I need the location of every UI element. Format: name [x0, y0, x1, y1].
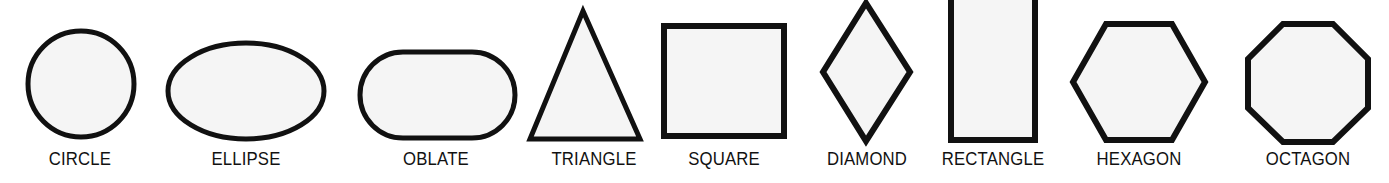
shape-item-triangle: TRIANGLE: [524, 0, 664, 183]
shape-item-square: SQUARE: [655, 0, 793, 183]
ellipse-icon: [168, 43, 324, 139]
shape-item-ellipse: ELLIPSE: [160, 0, 332, 183]
shape-item-diamond: DIAMOND: [800, 0, 934, 183]
shape-label-triangle: TRIANGLE: [532, 148, 655, 170]
oblate-icon: [360, 52, 515, 138]
shape-item-circle: CIRCLE: [0, 0, 160, 183]
rectangle-shape-art: [933, 0, 1053, 150]
triangle-shape-art: [524, 0, 664, 150]
shape-label-circle: CIRCLE: [10, 148, 151, 170]
shape-item-rectangle: RECTANGLE: [933, 0, 1053, 183]
octagon-shape-art: [1232, 0, 1384, 150]
square-shape-art: [655, 0, 793, 150]
shape-label-rectangle: RECTANGLE: [940, 148, 1046, 170]
rectangle-icon: [951, 0, 1035, 140]
shape-label-diamond: DIAMOND: [808, 148, 926, 170]
shape-label-ellipse: ELLIPSE: [170, 148, 321, 170]
ellipse-shape-art: [160, 0, 332, 150]
triangle-icon: [530, 11, 640, 139]
hexagon-icon: [1073, 24, 1205, 140]
diamond-icon: [823, 3, 910, 141]
shape-label-octagon: OCTAGON: [1241, 148, 1375, 170]
oblate-shape-art: [344, 0, 528, 150]
shape-label-oblate: OBLATE: [355, 148, 517, 170]
circle-shape-art: [0, 0, 160, 150]
hexagon-shape-art: [1058, 0, 1220, 150]
shape-item-octagon: OCTAGON: [1232, 0, 1384, 183]
shape-label-square: SQUARE: [663, 148, 784, 170]
circle-icon: [28, 31, 134, 137]
shape-label-hexagon: HEXAGON: [1068, 148, 1211, 170]
octagon-icon: [1248, 24, 1368, 142]
square-icon: [664, 26, 784, 136]
shape-item-hexagon: HEXAGON: [1058, 0, 1220, 183]
shapes-figure: CIRCLE ELLIPSE OBLATE TRIANGLE: [0, 0, 1389, 183]
diamond-shape-art: [800, 0, 934, 150]
shape-item-oblate: OBLATE: [344, 0, 528, 183]
